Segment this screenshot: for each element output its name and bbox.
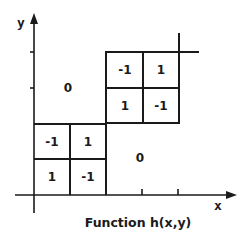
- lower-grid: -1 1 1 -1: [34, 124, 106, 195]
- zero-region-upper-left: 0: [64, 81, 72, 95]
- y-axis-arrow-icon: [30, 13, 38, 24]
- upper-grid-cell: -1: [118, 63, 131, 77]
- diagram-caption: Function h(x,y): [85, 215, 192, 230]
- function-diagram: y x -1 1 1 -1 -1 1 1 -1 0 0 Function h(x…: [0, 0, 249, 237]
- y-axis-label: y: [17, 15, 25, 30]
- lower-grid-cell: -1: [45, 135, 58, 149]
- x-axis: x: [15, 189, 237, 213]
- upper-grid-cell: 1: [121, 99, 129, 113]
- upper-grid: -1 1 1 -1: [106, 33, 199, 195]
- upper-grid-cell: -1: [154, 99, 167, 113]
- lower-grid-cell: -1: [81, 170, 94, 184]
- y-axis: y: [17, 13, 38, 213]
- x-axis-label: x: [214, 198, 222, 213]
- lower-grid-cell: 1: [84, 135, 92, 149]
- lower-grid-cell: 1: [48, 170, 56, 184]
- zero-region-lower-right: 0: [136, 151, 144, 165]
- x-axis-arrow-icon: [226, 191, 237, 199]
- upper-grid-cell: 1: [157, 63, 165, 77]
